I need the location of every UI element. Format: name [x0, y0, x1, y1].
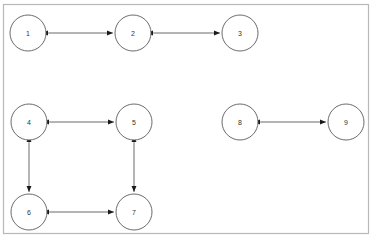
- graph-svg: 123456789: [0, 0, 375, 243]
- node-label: 5: [132, 119, 136, 126]
- graph-node-2[interactable]: 2: [115, 15, 151, 51]
- graph-node-1[interactable]: 1: [10, 15, 46, 51]
- node-label: 1: [26, 30, 30, 37]
- graph-node-6[interactable]: 6: [11, 194, 47, 230]
- node-label: 8: [238, 119, 242, 126]
- graph-node-4[interactable]: 4: [11, 104, 47, 140]
- graph-node-8[interactable]: 8: [222, 104, 258, 140]
- node-label: 4: [27, 119, 31, 126]
- graph-node-5[interactable]: 5: [116, 104, 152, 140]
- graph-node-7[interactable]: 7: [116, 194, 152, 230]
- node-label: 6: [27, 209, 31, 216]
- diagram-canvas: 123456789: [0, 0, 375, 243]
- diagram-frame: [4, 5, 369, 234]
- graph-node-9[interactable]: 9: [328, 104, 364, 140]
- node-label: 2: [131, 30, 135, 37]
- node-label: 3: [238, 30, 242, 37]
- node-label: 7: [132, 209, 136, 216]
- node-label: 9: [344, 119, 348, 126]
- graph-node-3[interactable]: 3: [222, 15, 258, 51]
